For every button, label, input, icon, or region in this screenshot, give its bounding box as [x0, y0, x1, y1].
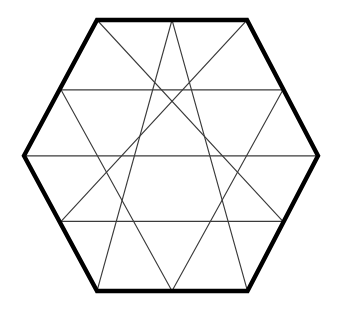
hexagon-triangular-grid-svg [0, 0, 340, 312]
figure-canvas [0, 0, 340, 312]
